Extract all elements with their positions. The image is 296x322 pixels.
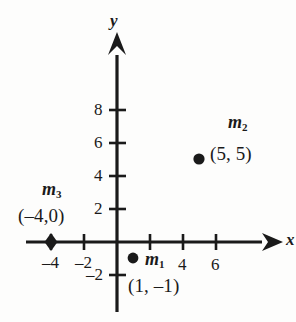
point-label-m1: m1 [145,250,165,268]
point-label-m1-subscript: 1 [159,258,165,270]
x-tick-label-6: 6 [211,256,220,273]
point-coord-m1: (1, –1) [128,276,179,295]
point-label-m3-name: m [42,179,56,199]
x-axis-arrowhead [262,233,283,251]
point-marker-m1 [128,253,139,264]
y-tick-label--2: –2 [86,266,103,283]
point-label-m3-subscript: 3 [56,188,62,200]
y-tick-label-6: 6 [94,134,103,151]
y-axis-label: y [110,12,118,29]
y-tick-label-2: 2 [94,200,103,217]
y-axis-arrowhead [108,32,126,55]
point-label-m1-name: m [145,249,159,269]
point-label-m3: m3 [42,180,62,198]
y-tick-label-4: 4 [94,167,103,184]
point-marker-m2 [193,153,204,164]
point-label-m2-subscript: 2 [242,121,248,133]
point-coord-m3: (–4,0) [18,206,65,225]
x-tick-label--4: –4 [42,254,59,271]
y-tick-label-8: 8 [94,101,103,118]
point-marker-m3 [45,233,58,251]
point-coord-m2: (5, 5) [210,144,252,163]
point-label-m2-name: m [228,112,242,132]
coordinate-plane-figure: y x –4 –2 4 6 8 6 4 2 –2 m1 (1, –1) m2 (… [0,0,296,322]
x-axis-label: x [286,231,295,248]
point-label-m2: m2 [228,113,248,131]
x-tick-label-4: 4 [178,256,187,273]
